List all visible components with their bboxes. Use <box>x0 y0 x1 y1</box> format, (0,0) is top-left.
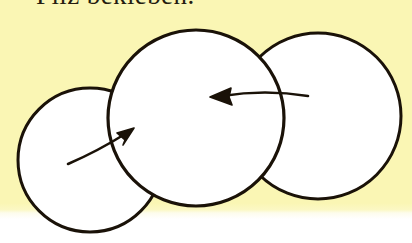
scanned-page: Pilz bekleben. <box>0 0 412 243</box>
circle-middle <box>108 30 284 206</box>
figure-three-overlapping-circles <box>0 0 412 243</box>
